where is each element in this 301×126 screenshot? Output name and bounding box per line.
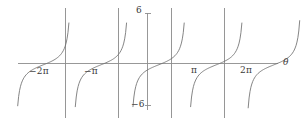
x-axis-variable-label: θ bbox=[283, 58, 289, 67]
x-tick-label-pi: π bbox=[191, 66, 197, 75]
x-tick-label-neg-pi: −π bbox=[84, 67, 98, 76]
x-tick-label-neg-two-pi: −2π bbox=[29, 67, 49, 76]
asymptote-group bbox=[66, 8, 225, 118]
y-axis-max-label: 6 bbox=[136, 6, 142, 15]
axes-group bbox=[18, 13, 278, 110]
tangent-branch bbox=[191, 23, 242, 107]
tangent-branch bbox=[18, 23, 69, 106]
tangent-function-plot: 6 −6 −2π −π π 2π θ bbox=[0, 0, 301, 126]
tangent-curve-group bbox=[18, 21, 300, 108]
tangent-branch bbox=[133, 23, 184, 107]
plot-canvas bbox=[0, 0, 301, 126]
x-tick-label-two-pi: 2π bbox=[240, 66, 252, 75]
y-axis-min-label: −6 bbox=[131, 100, 145, 109]
y-tick-group bbox=[145, 14, 151, 106]
tangent-branch bbox=[248, 21, 300, 108]
